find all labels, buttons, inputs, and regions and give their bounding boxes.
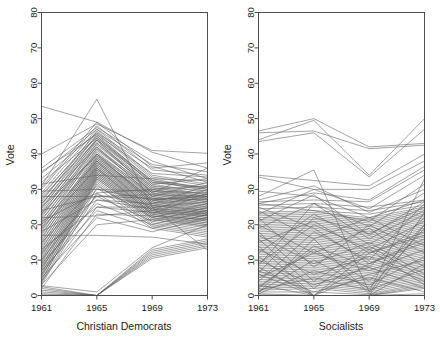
y-tick-label: 10 xyxy=(28,255,39,266)
series-group-1 xyxy=(259,119,425,296)
series-line xyxy=(259,209,425,220)
y-tick-label: 0 xyxy=(28,293,39,298)
y-tick-label: 30 xyxy=(245,184,256,195)
y-tick-label: 70 xyxy=(28,43,39,54)
y-tick-label: 50 xyxy=(245,113,256,124)
panel-christian-democrats: 01020304050607080 1961196519691973 Vote … xyxy=(0,0,220,342)
y-tick-label: 70 xyxy=(245,43,256,54)
x-axis: 1961196519691973 xyxy=(248,296,435,313)
y-axis-label: Vote xyxy=(4,144,16,165)
y-tick-label: 30 xyxy=(28,184,39,195)
series-group-0 xyxy=(42,99,208,295)
series-line xyxy=(259,170,425,202)
figure-root: 01020304050607080 1961196519691973 Vote … xyxy=(0,0,440,342)
series-line xyxy=(42,129,208,173)
series-line xyxy=(259,250,425,261)
y-tick-label: 20 xyxy=(28,219,39,230)
x-tick-label: 1961 xyxy=(248,302,269,313)
series-line xyxy=(259,129,425,177)
y-tick-label: 80 xyxy=(245,7,256,18)
series-line xyxy=(259,119,425,147)
x-axis: 1961196519691973 xyxy=(31,296,218,313)
x-tick-label: 1973 xyxy=(414,302,435,313)
series-line xyxy=(259,166,425,203)
y-tick-label: 40 xyxy=(245,149,256,160)
y-axis-label: Vote xyxy=(221,144,233,165)
y-tick-label: 80 xyxy=(28,7,39,18)
series-line xyxy=(42,246,208,296)
y-tick-label: 60 xyxy=(245,78,256,89)
x-tick-label: 1965 xyxy=(86,302,107,313)
series-line xyxy=(259,131,425,149)
x-tick-label: 1969 xyxy=(142,302,163,313)
y-axis: 01020304050607080 xyxy=(245,7,259,298)
panel-socialists: 01020304050607080 1961196519691973 Vote … xyxy=(220,0,440,342)
x-axis-label: Christian Democrats xyxy=(76,320,171,332)
x-tick-label: 1969 xyxy=(359,302,380,313)
y-tick-label: 50 xyxy=(28,113,39,124)
series-line xyxy=(259,161,425,189)
series-line xyxy=(259,154,425,186)
y-tick-label: 60 xyxy=(28,78,39,89)
y-axis: 01020304050607080 xyxy=(28,7,42,298)
x-tick-label: 1973 xyxy=(197,302,218,313)
y-tick-label: 40 xyxy=(28,149,39,160)
x-axis-label: Socialists xyxy=(319,320,363,332)
y-tick-label: 20 xyxy=(245,219,256,230)
panel-christian-democrats-svg: 01020304050607080 1961196519691973 Vote … xyxy=(0,0,220,342)
x-tick-label: 1961 xyxy=(31,302,52,313)
x-tick-label: 1965 xyxy=(303,302,324,313)
y-tick-label: 10 xyxy=(245,255,256,266)
panel-socialists-svg: 01020304050607080 1961196519691973 Vote … xyxy=(220,0,440,342)
y-tick-label: 0 xyxy=(245,293,256,298)
